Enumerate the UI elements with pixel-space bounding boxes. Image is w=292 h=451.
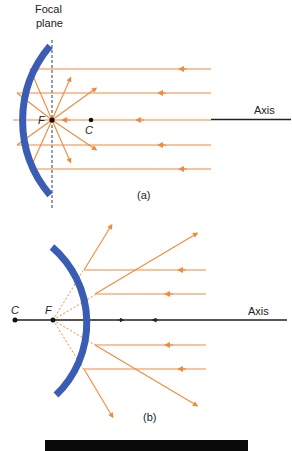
center-point-b [13, 318, 18, 323]
center-point-a [89, 118, 94, 123]
axis-label-b: Axis [248, 305, 269, 317]
focus-label-b: F [45, 304, 53, 316]
center-label-b: C [11, 304, 19, 316]
figure-b: Axis C F (b) [11, 226, 287, 423]
caption-a: (a) [137, 189, 150, 201]
focus-point-a [49, 117, 54, 122]
reflected-rays-b [84, 226, 196, 416]
mirror-diagrams: Focal plane [0, 0, 292, 451]
center-label-a: C [85, 124, 93, 136]
caption-b: (b) [143, 411, 156, 423]
convex-mirror [52, 247, 87, 395]
focal-plane-label-2: plane [36, 17, 63, 29]
axis-label-a: Axis [254, 104, 275, 116]
bottom-black-bar [45, 440, 248, 451]
figure-a: Focal plane [13, 3, 291, 210]
focal-plane-label-1: Focal [35, 3, 62, 15]
focus-point-b [51, 318, 56, 323]
